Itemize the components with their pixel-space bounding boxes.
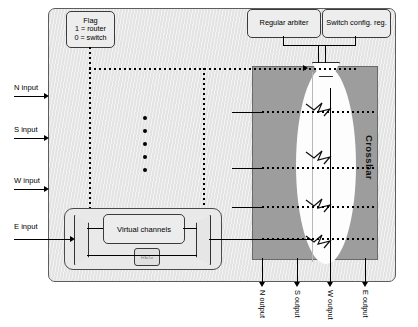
flag-control-line-vertical <box>89 47 91 214</box>
input-arrow-n <box>44 93 49 99</box>
output-label-w: W output <box>326 290 335 320</box>
output-arrow-n <box>259 282 265 287</box>
crossbar-in-line-2 <box>232 168 262 169</box>
arbiter-to-funnel-line <box>318 45 319 63</box>
flag-box[interactable]: Flag 1 = router 0 = switch <box>66 11 115 48</box>
output-label-n: N output <box>258 290 267 318</box>
crossbar-row-line-2 <box>262 167 374 169</box>
input-line-w <box>14 189 46 190</box>
crossbar-switch-icon <box>304 100 338 118</box>
crossbar-in-line-1 <box>232 112 262 113</box>
crossbar-label: Crossbar <box>364 135 375 180</box>
input-line-n <box>14 96 46 97</box>
output-arrow-w <box>327 282 333 287</box>
crossbar-switch-icon <box>304 148 338 166</box>
output-mux <box>196 215 211 265</box>
input-label-s: S input <box>14 125 38 134</box>
crossbar-row-line-3 <box>262 206 374 208</box>
crossbar-row-line-1 <box>262 111 374 113</box>
flag-to-crossbar-arrow <box>303 65 308 71</box>
input-arrow-e <box>70 236 75 242</box>
config-connector-stem <box>355 36 356 45</box>
flag-control-branch-line <box>203 68 205 214</box>
input-label-w: W input <box>14 176 40 185</box>
flag-switch-value: 0 = switch <box>74 34 106 42</box>
input-line-e <box>14 239 72 240</box>
demux-to-vc-line <box>87 228 103 229</box>
output-label-e: E output <box>361 290 370 318</box>
input-arrow-w <box>44 186 49 192</box>
reg-box[interactable]: REG <box>134 248 160 266</box>
output-arrow-s <box>294 282 300 287</box>
crossbar-switch-icon <box>304 232 338 250</box>
input-demux <box>74 215 89 265</box>
regular-arbiter-box[interactable]: Regular arbiter <box>247 9 321 38</box>
vc-to-mux-line <box>183 228 197 229</box>
switch-config-reg-box[interactable]: Switch config. reg. <box>322 9 391 38</box>
arbiter-connector-stem <box>283 36 284 45</box>
input-arrow-s <box>44 135 49 141</box>
config-to-funnel-line <box>325 45 326 63</box>
virtual-channels-label: Virtual channels <box>117 225 171 234</box>
output-line-w <box>330 258 331 284</box>
repeated-units-ellipsis <box>142 116 148 172</box>
diagram-canvas: Crossbar Regular arbiter Switch config. … <box>0 0 418 327</box>
output-line-e <box>365 258 366 284</box>
virtual-channels-box[interactable]: Virtual channels <box>103 214 185 244</box>
output-line-n <box>262 258 263 284</box>
bypass-line <box>87 255 197 256</box>
crossbar-switch-icon <box>304 196 338 214</box>
config-connector-elbow <box>325 45 356 46</box>
output-label-s: S output <box>293 290 302 318</box>
output-line-s <box>297 258 298 284</box>
input-label-e: E input <box>14 222 38 231</box>
crossbar-row-line-4 <box>262 238 374 240</box>
switch-config-reg-label: Switch config. reg. <box>326 19 386 28</box>
crossbar-in-line-3 <box>232 207 262 208</box>
input-label-n: N input <box>14 83 38 92</box>
regular-arbiter-label: Regular arbiter <box>260 19 309 28</box>
output-arrow-e <box>362 282 368 287</box>
flag-control-line-horizontal <box>89 68 359 70</box>
input-line-s <box>14 138 46 139</box>
